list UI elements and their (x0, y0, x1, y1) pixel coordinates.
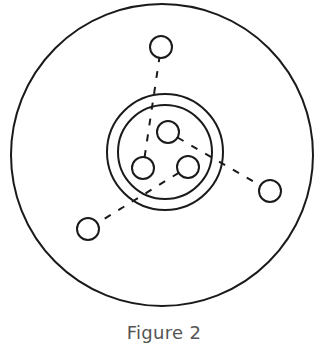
node-circle-outer-top (150, 36, 172, 58)
node-circle-inner-left (132, 157, 154, 179)
dashed-connector-inner-left-to-outer-top (145, 58, 160, 157)
node-circle-inner-right (177, 156, 199, 178)
ring-inner-circle (118, 105, 212, 199)
ring-outer-circle (107, 94, 223, 210)
outer-boundary-circle (11, 4, 313, 306)
figure-diagram (0, 0, 326, 353)
node-circle-inner-top (157, 121, 179, 143)
node-circle-outer-left (77, 218, 99, 240)
figure-caption: Figure 2 (0, 322, 326, 343)
node-circle-outer-right (259, 180, 281, 202)
